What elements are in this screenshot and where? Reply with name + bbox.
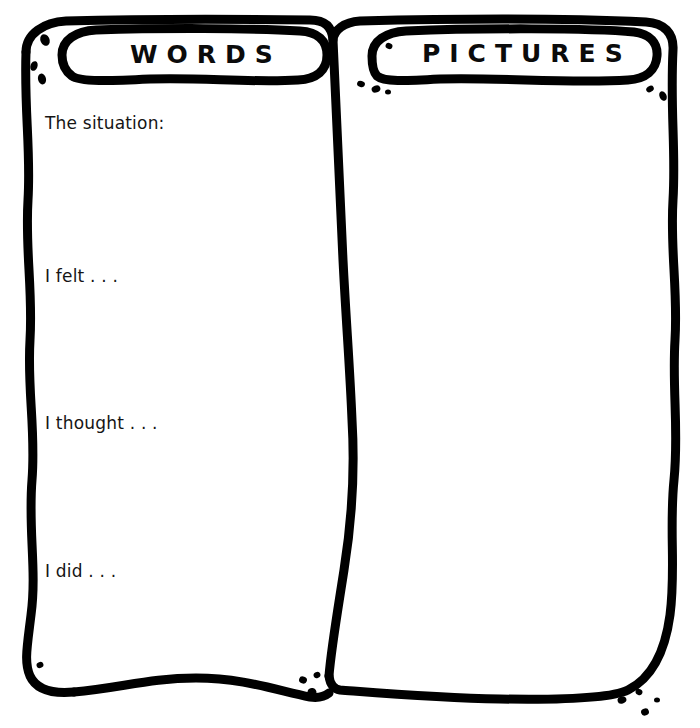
- worksheet-page: WORDS PICTURES The situation: I felt . .…: [0, 0, 700, 728]
- write-area-felt[interactable]: [42, 290, 337, 402]
- prompt-label-thought: I thought . . .: [45, 415, 158, 432]
- prompt-label-felt: I felt . . .: [45, 268, 118, 285]
- left-panel-bottom-edge: [74, 678, 329, 697]
- write-area-situation[interactable]: [42, 138, 327, 256]
- panel-title-words: WORDS: [130, 42, 282, 67]
- write-area-did[interactable]: [42, 585, 324, 673]
- panel-title-pictures: PICTURES: [422, 41, 632, 66]
- write-area-thought[interactable]: [42, 437, 342, 551]
- prompt-label-situation: The situation:: [45, 115, 165, 132]
- drawing-area-pictures[interactable]: [350, 100, 662, 678]
- prompt-label-did: I did . . .: [45, 563, 116, 580]
- ink-specks-pictures-pill-left: [385, 42, 394, 50]
